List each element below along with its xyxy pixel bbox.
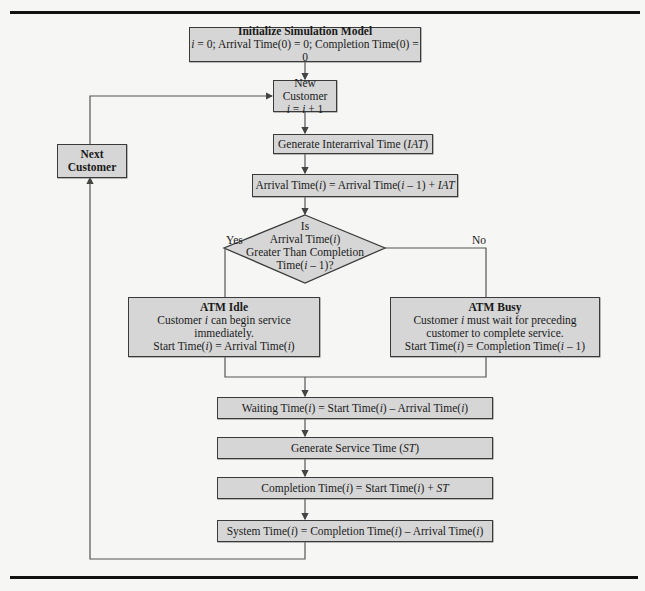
init-title: Initialize Simulation Model (238, 25, 372, 38)
increment-formula: i = i + 1 (287, 103, 324, 116)
atm-idle-box: ATM Idle Customer i can begin service im… (128, 297, 320, 357)
waiting-time-box: Waiting Time(i) = Start Time(i) – Arriva… (217, 397, 493, 419)
arrival-time-box: Arrival Time(i) = Arrival Time(i – 1) + … (252, 174, 458, 197)
generate-st-box: Generate Service Time (ST) (217, 437, 493, 459)
init-box: Initialize Simulation Model i = 0; Arriv… (189, 27, 421, 62)
generate-iat-box: Generate Interarrival Time (IAT) (273, 134, 433, 154)
system-time-box: System Time(i) = Completion Time(i) – Ar… (217, 520, 493, 542)
new-customer-title: New Customer (274, 77, 336, 103)
next-customer-box: Next Customer (57, 144, 127, 178)
no-label: No (472, 234, 486, 246)
atm-busy-box: ATM Busy Customer i must wait for preced… (390, 297, 600, 357)
new-customer-box: New Customer i = i + 1 (273, 80, 337, 112)
completion-time-box: Completion Time(i) = Start Time(i) + ST (217, 477, 493, 499)
init-conditions: i = 0; Arrival Time(0) = 0; Completion T… (190, 38, 420, 64)
yes-label: Yes (226, 234, 243, 246)
decision-text: Is Arrival Time(i) Greater Than Completi… (240, 220, 370, 272)
